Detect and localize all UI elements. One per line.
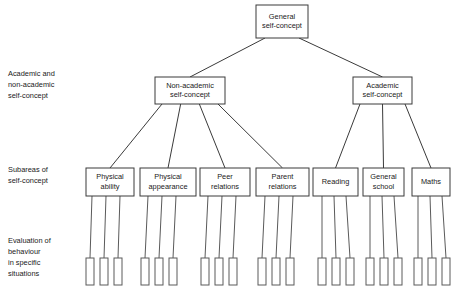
evaluation-rect[interactable] xyxy=(141,258,149,285)
node-academic-self-concept[interactable]: Academicself-concept xyxy=(353,77,412,104)
leaf-connector xyxy=(173,196,176,258)
evaluation-rect[interactable] xyxy=(86,258,94,285)
leaf-connector xyxy=(276,196,279,258)
evaluation-rect[interactable] xyxy=(346,258,354,285)
leaf-connector xyxy=(90,196,92,258)
evaluation-group-parent-relations xyxy=(258,196,294,285)
leaf-connector xyxy=(262,196,265,258)
evaluation-rect[interactable] xyxy=(318,258,326,285)
tier-label-line: Evaluation of xyxy=(8,236,52,245)
leaf-connector xyxy=(346,196,350,258)
node-physical-ability[interactable]: Physicalability xyxy=(86,168,134,196)
box-label-line: General xyxy=(370,172,397,181)
link-academic-self-concept-to-general-school xyxy=(383,104,384,168)
link-non-academic-self-concept-to-physical-appearance xyxy=(168,104,181,168)
leaf-connector xyxy=(334,196,336,258)
leaf-connector xyxy=(394,196,398,258)
box-label-line: Reading xyxy=(322,177,350,186)
tier-label-line: Academic and xyxy=(8,69,55,78)
box-label-line: Physical xyxy=(154,172,182,181)
box-label-line: ability xyxy=(101,182,120,191)
evaluation-group-physical-ability xyxy=(86,196,122,285)
link-non-academic-self-concept-to-peer-relations xyxy=(199,104,225,168)
node-non-academic-self-concept[interactable]: Non-academicself-concept xyxy=(155,77,225,104)
tier-labels-group: Academic andnon-academicself-conceptSuba… xyxy=(8,69,55,278)
leaf-connector xyxy=(442,196,446,258)
node-reading[interactable]: Reading xyxy=(313,168,358,196)
box-label-line: Peer xyxy=(217,172,233,181)
evaluation-rect[interactable] xyxy=(258,258,266,285)
leaf-connector xyxy=(430,196,432,258)
tier-label-line: self-concept xyxy=(8,176,48,185)
tier-label-line: in specific xyxy=(8,258,41,267)
evaluation-group-physical-appearance xyxy=(141,196,177,285)
tier-label-tier-3: Subareas ofself-concept xyxy=(8,165,49,185)
box-label-line: General xyxy=(269,12,296,21)
tier-label-tier-2: Academic andnon-academicself-concept xyxy=(8,69,55,100)
leaf-connector xyxy=(382,196,384,258)
concept-boxes-group: Generalself-conceptNon-academicself-conc… xyxy=(86,5,450,196)
link-non-academic-self-concept-to-parent-relations xyxy=(218,104,283,168)
tier-label-line: non-academic xyxy=(8,80,55,89)
evaluation-rect[interactable] xyxy=(169,258,177,285)
leaf-connector xyxy=(205,196,208,258)
evaluation-rect[interactable] xyxy=(229,258,237,285)
tier-label-line: behaviour xyxy=(8,247,41,256)
evaluation-rect[interactable] xyxy=(394,258,402,285)
diagram-canvas: Academic andnon-academicself-conceptSuba… xyxy=(0,0,461,300)
evaluation-rect[interactable] xyxy=(428,258,436,285)
link-academic-self-concept-to-maths xyxy=(405,104,431,168)
evaluation-rect[interactable] xyxy=(414,258,422,285)
node-physical-appearance[interactable]: Physicalappearance xyxy=(140,168,196,196)
link-academic-self-concept-to-reading xyxy=(336,104,361,168)
evaluation-rect[interactable] xyxy=(100,258,108,285)
box-label-line: Academic xyxy=(366,81,399,90)
leaf-connector xyxy=(118,196,120,258)
link-non-academic-self-concept-to-physical-ability xyxy=(110,104,162,168)
box-label-line: Physical xyxy=(96,172,124,181)
leaf-connector xyxy=(145,196,148,258)
box-label-line: school xyxy=(373,182,395,191)
leaf-connector xyxy=(159,196,162,258)
box-label-line: Non-academic xyxy=(166,81,214,90)
evaluation-rect[interactable] xyxy=(215,258,223,285)
evaluation-rect[interactable] xyxy=(114,258,122,285)
evaluation-group-general-school xyxy=(366,196,402,285)
leaf-connector xyxy=(104,196,106,258)
self-concept-hierarchy-diagram: Academic andnon-academicself-conceptSuba… xyxy=(0,0,461,300)
evaluation-group-peer-relations xyxy=(201,196,237,285)
evaluation-rect[interactable] xyxy=(366,258,374,285)
box-label-line: self-concept xyxy=(363,90,403,99)
evaluation-rect[interactable] xyxy=(286,258,294,285)
leaf-connector xyxy=(290,196,293,258)
evaluation-rect[interactable] xyxy=(201,258,209,285)
node-parent-relations[interactable]: Parentrelations xyxy=(256,168,309,196)
tier-label-tier-4: Evaluation ofbehaviourin specificsituati… xyxy=(8,236,52,278)
evaluation-rect[interactable] xyxy=(272,258,280,285)
evaluation-rect[interactable] xyxy=(332,258,340,285)
node-peer-relations[interactable]: Peerrelations xyxy=(200,168,250,196)
box-label-line: relations xyxy=(269,182,297,191)
box-label-line: Maths xyxy=(421,177,441,186)
evaluation-rect[interactable] xyxy=(380,258,388,285)
link-root-to-non-academic-self-concept xyxy=(190,38,265,77)
evaluation-group-reading xyxy=(318,196,354,285)
evaluation-rect[interactable] xyxy=(442,258,450,285)
evaluation-rectangles-group xyxy=(86,196,450,285)
tier-label-line: situations xyxy=(8,269,40,278)
link-root-to-academic-self-concept xyxy=(299,38,383,77)
tier-label-line: Subareas of xyxy=(8,165,49,174)
box-label-line: relations xyxy=(211,182,239,191)
leaf-connector xyxy=(219,196,222,258)
node-general-school[interactable]: Generalschool xyxy=(363,168,404,196)
box-label-line: self-concept xyxy=(170,90,210,99)
node-general-self-concept[interactable]: Generalself-concept xyxy=(256,5,308,38)
box-label-line: appearance xyxy=(148,182,187,191)
box-label-line: Parent xyxy=(272,172,294,181)
evaluation-rect[interactable] xyxy=(155,258,163,285)
box-label-line: self-concept xyxy=(262,21,302,30)
node-maths[interactable]: Maths xyxy=(412,168,450,196)
tier-label-line: self-concept xyxy=(8,91,48,100)
leaf-connector xyxy=(233,196,236,258)
evaluation-group-maths xyxy=(414,196,450,285)
